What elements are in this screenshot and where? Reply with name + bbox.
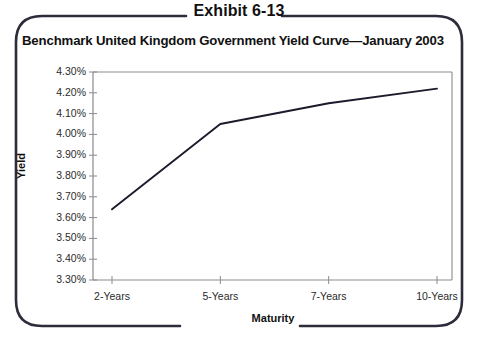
x-tick-label: 2-Years <box>94 290 130 302</box>
x-tick-label: 7-Years <box>311 290 347 302</box>
x-tick-label: 5-Years <box>202 290 238 302</box>
y-axis-title: Yield <box>15 136 27 196</box>
x-tick-label: 10-Years <box>416 290 458 302</box>
x-axis-tick-labels: 2-Years5-Years7-Years10-Years <box>0 0 478 340</box>
chart-plot-area: 4.30%4.20%4.10%4.00%3.90%3.80%3.70%3.60%… <box>0 0 478 340</box>
x-axis-title: Maturity <box>93 312 453 324</box>
